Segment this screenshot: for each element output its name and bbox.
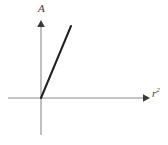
y-axis-arrowhead: [37, 20, 45, 27]
plot-canvas: [0, 0, 168, 145]
x-axis-label: r2: [152, 88, 160, 99]
figure-panel: A r2: [0, 0, 168, 145]
x-axis-arrowhead: [143, 94, 150, 102]
x-axis-label-exponent: 2: [156, 86, 160, 94]
y-axis-label: A: [38, 3, 45, 14]
data-line-series-0: [41, 26, 71, 98]
